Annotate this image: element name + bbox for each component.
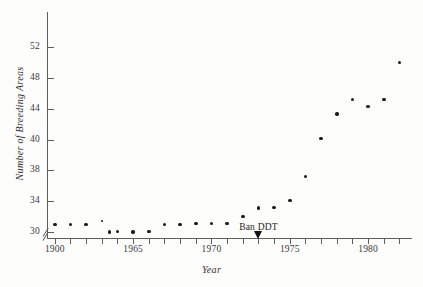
ban-ddt-arrow-icon (254, 231, 262, 239)
x-tick-1978 (337, 239, 338, 244)
y-tick-38 (48, 170, 54, 171)
x-tick-label-1965: 1965 (123, 244, 143, 254)
x-tick-1977 (321, 239, 322, 244)
y-tick-label-30: 30 (16, 227, 40, 237)
data-point (108, 230, 111, 233)
data-point (116, 230, 119, 233)
data-point (288, 199, 291, 202)
data-point (335, 112, 338, 115)
data-point (351, 98, 354, 101)
y-tick-44 (48, 109, 54, 110)
x-axis-title: Year (0, 264, 423, 275)
y-axis-line (47, 12, 48, 238)
data-point (101, 220, 103, 222)
data-point (210, 222, 213, 225)
data-point (225, 222, 228, 225)
x-tick-1962 (86, 239, 87, 244)
data-point (366, 105, 369, 108)
data-point (131, 230, 134, 233)
x-tick-1981 (384, 239, 385, 244)
x-tick-1973 (258, 239, 259, 244)
x-tick-label-1975: 1975 (280, 244, 300, 254)
data-point (53, 223, 56, 226)
x-tick-1982 (399, 239, 400, 244)
x-tick-1969 (196, 239, 197, 244)
x-tick-1974 (274, 239, 275, 244)
data-point (163, 223, 166, 226)
data-point (241, 215, 244, 218)
y-tick-34 (48, 201, 54, 202)
data-point (398, 61, 401, 64)
y-tick-30 (48, 232, 54, 233)
x-tick-1971 (227, 239, 228, 244)
data-point (194, 222, 197, 225)
data-point (147, 230, 150, 233)
y-tick-40 (48, 140, 54, 141)
data-point (69, 223, 72, 226)
data-point (257, 206, 260, 209)
x-tick-label-1970: 1970 (202, 244, 222, 254)
scatter-chart-figure: 30343840444852 19001965197019751980 Ban … (0, 0, 423, 287)
x-tick-1976 (305, 239, 306, 244)
x-tick-label-1900: 1900 (45, 244, 65, 254)
data-point (382, 98, 385, 101)
y-tick-label-wrap: 30 (0, 227, 40, 237)
x-tick-1963 (102, 239, 103, 244)
data-point (304, 175, 307, 178)
x-tick-label-1980: 1980 (358, 244, 378, 254)
x-tick-1966 (149, 239, 150, 244)
x-tick-1972 (243, 239, 244, 244)
data-point (272, 206, 275, 209)
x-tick-1968 (180, 239, 181, 244)
x-tick-1967 (164, 239, 165, 244)
x-tick-1961 (70, 239, 71, 244)
x-tick-1964 (117, 239, 118, 244)
x-tick-1979 (352, 239, 353, 244)
y-tick-52 (48, 47, 54, 48)
data-point (84, 223, 87, 226)
y-tick-48 (48, 78, 54, 79)
y-axis-title: Number of Breeding Areas (14, 44, 25, 204)
data-point (319, 137, 322, 140)
data-point (178, 223, 181, 226)
